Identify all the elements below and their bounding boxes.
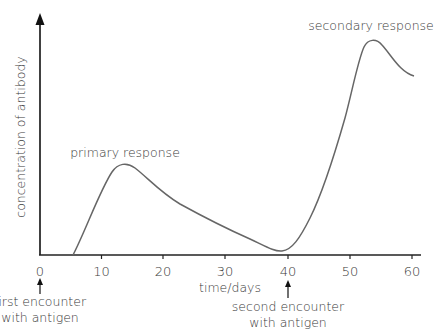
second-encounter-label-1: second encounter bbox=[232, 299, 345, 314]
tick-label-40: 40 bbox=[280, 264, 297, 279]
first-encounter-label-1: first encounter bbox=[0, 294, 87, 309]
first-encounter-label-2: with antigen bbox=[1, 310, 79, 325]
secondary-response-label: secondary response bbox=[308, 18, 434, 33]
second-encounter-label-2: with antigen bbox=[249, 315, 327, 330]
tick-label-0: 0 bbox=[36, 264, 44, 279]
arrow-up-icon bbox=[37, 278, 43, 285]
tick-label-10: 10 bbox=[93, 264, 110, 279]
x-tick-labels: 0 10 20 30 40 50 60 bbox=[36, 264, 420, 279]
y-axis-title: concentration of antibody bbox=[13, 56, 28, 217]
arrow-up-icon bbox=[285, 280, 291, 287]
antibody-response-chart: 0 10 20 30 40 50 60 primary response sec… bbox=[0, 0, 435, 332]
y-axis-arrow-icon bbox=[36, 13, 45, 25]
tick-label-60: 60 bbox=[404, 264, 421, 279]
tick-label-50: 50 bbox=[342, 264, 359, 279]
primary-response-label: primary response bbox=[70, 145, 180, 160]
tick-label-20: 20 bbox=[155, 264, 172, 279]
x-axis-title: time/days bbox=[199, 280, 261, 295]
tick-label-30: 30 bbox=[217, 264, 234, 279]
